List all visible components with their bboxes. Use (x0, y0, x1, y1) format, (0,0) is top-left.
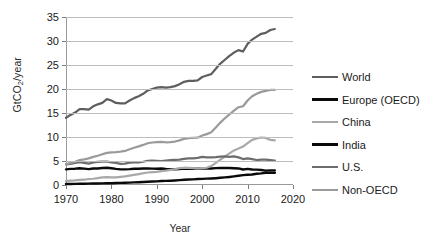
y-axis-title-suffix: /year (11, 57, 23, 81)
x-tick-label-2020: 2020 (268, 194, 318, 205)
legend-item-india[interactable]: India (312, 134, 420, 157)
legend-label: China (342, 116, 371, 128)
y-tick-label-5: 5 (53, 156, 59, 167)
legend-label: World (342, 71, 371, 83)
y-tick-mark-30 (62, 41, 66, 42)
legend-label: Non-OECD (342, 184, 398, 196)
gridline-y-5 (66, 161, 293, 162)
legend-swatch-icon (312, 76, 338, 78)
legend-item-europe-oecd[interactable]: Europe (OECD) (312, 89, 420, 112)
legend-swatch-icon (312, 166, 338, 168)
y-axis-title-subscript: 2 (16, 81, 25, 85)
y-tick-mark-5 (62, 161, 66, 162)
y-tick-label-35: 35 (47, 12, 59, 23)
x-axis-title: Year (66, 222, 294, 234)
legend-label: U.S. (342, 161, 363, 173)
gridline-y-30 (66, 41, 293, 42)
y-tick-mark-20 (62, 89, 66, 90)
x-tick-mark-1990 (157, 185, 158, 189)
series-layer (66, 17, 293, 185)
y-tick-label-10: 10 (47, 132, 59, 143)
x-tick-mark-2000 (202, 185, 203, 189)
legend-label: India (342, 139, 366, 151)
y-tick-mark-35 (62, 17, 66, 18)
x-tick-mark-2010 (248, 185, 249, 189)
legend-swatch-icon (312, 189, 338, 191)
x-tick-label-1970: 1970 (41, 194, 91, 205)
chart-legend: WorldEurope (OECD)ChinaIndiaU.S.Non-OECD (312, 66, 420, 201)
x-tick-mark-1980 (111, 185, 112, 189)
x-tick-label-1990: 1990 (132, 194, 182, 205)
y-tick-label-20: 20 (47, 84, 59, 95)
legend-item-china[interactable]: China (312, 111, 420, 134)
x-tick-mark-1970 (66, 185, 67, 189)
y-tick-label-0: 0 (53, 180, 59, 191)
legend-label: Europe (OECD) (342, 94, 420, 106)
legend-swatch-icon (312, 121, 338, 123)
y-tick-mark-15 (62, 113, 66, 114)
y-axis-title-prefix: GtCO (11, 85, 23, 112)
legend-swatch-icon (312, 143, 338, 146)
gridline-y-15 (66, 113, 293, 114)
y-tick-mark-25 (62, 65, 66, 66)
x-tick-label-2000: 2000 (177, 194, 227, 205)
x-tick-mark-2020 (293, 185, 294, 189)
plot-area (66, 17, 293, 185)
legend-swatch-icon (312, 98, 338, 101)
legend-item-u-s[interactable]: U.S. (312, 156, 420, 179)
gridline-y-25 (66, 65, 293, 66)
y-tick-label-25: 25 (47, 60, 59, 71)
x-tick-label-2010: 2010 (223, 194, 273, 205)
y-tick-mark-10 (62, 137, 66, 138)
gridline-y-10 (66, 137, 293, 138)
x-tick-label-1980: 1980 (86, 194, 136, 205)
y-axis-title: GtCO2/year (11, 39, 25, 131)
gridline-y-35 (66, 17, 293, 18)
legend-item-non-oecd[interactable]: Non-OECD (312, 179, 420, 202)
y-tick-label-15: 15 (47, 108, 59, 119)
gridline-y-20 (66, 89, 293, 90)
legend-item-world[interactable]: World (312, 66, 420, 89)
y-tick-label-30: 30 (47, 36, 59, 47)
emissions-line-chart: GtCO2/year 05101520253035197019801990200… (0, 0, 435, 246)
series-line-non-oecd (66, 90, 275, 164)
